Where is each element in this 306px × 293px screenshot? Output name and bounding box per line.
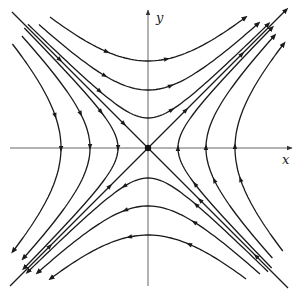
- flow-arrow-icon: [167, 82, 174, 88]
- flow-arrow-icon: [88, 144, 92, 150]
- flow-arrow-icon: [101, 72, 108, 79]
- flow-arrow-icon: [211, 176, 218, 183]
- flow-arrow-icon: [59, 146, 64, 152]
- phase-portrait-figure: [0, 0, 306, 293]
- flow-arrow-icon: [103, 49, 110, 55]
- flow-arrow-icon: [185, 241, 192, 247]
- flow-arrow-icon: [237, 175, 243, 182]
- flow-arrow-icon: [78, 110, 85, 117]
- x-axis-label: x: [282, 152, 289, 167]
- flow-arrow-icon: [52, 112, 58, 119]
- y-axis-label: y: [156, 10, 163, 25]
- flow-arrow-icon: [204, 144, 209, 150]
- flow-arrow-icon: [121, 207, 128, 213]
- saddle-point: [145, 145, 151, 151]
- flow-arrow-icon: [233, 143, 238, 149]
